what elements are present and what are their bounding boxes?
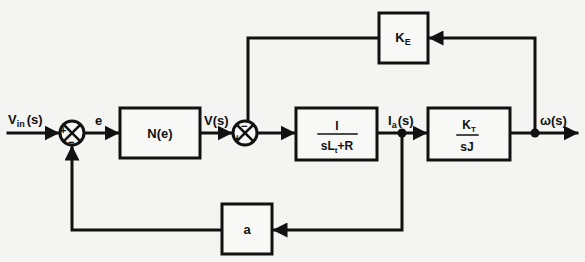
current-label: Ia(s) <box>388 113 414 130</box>
sum2-minus-sign: − <box>241 120 247 132</box>
electrical-denominator: sLt+R <box>321 139 354 155</box>
input-label: Vin(s) <box>8 112 43 129</box>
current-gain-label: a <box>243 222 251 237</box>
sum1-plus-sign: + <box>60 124 66 136</box>
voltage-label: V(s) <box>204 113 229 128</box>
current-pickoff-point <box>398 129 407 138</box>
sum2-plus-sign: + <box>234 132 240 144</box>
nonlinearity-label: N(e) <box>147 126 172 141</box>
error-label: e <box>95 113 102 128</box>
speed-pickoff-point <box>531 129 540 138</box>
sum1-minus-sign: − <box>68 136 74 148</box>
electrical-numerator: I <box>335 119 338 133</box>
block-diagram: + − + − Vin(s) e V(s) Ia(s) ω(s) N(e) I … <box>0 0 585 262</box>
output-label: ω(s) <box>540 113 567 128</box>
mechanical-denominator: sJ <box>460 140 473 154</box>
